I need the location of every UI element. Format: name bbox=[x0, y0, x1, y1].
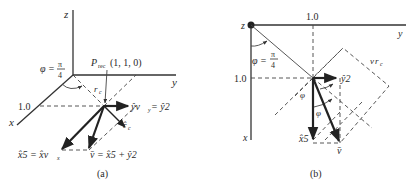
panel-b-caption: (b) bbox=[310, 168, 322, 180]
y-axis-label: y bbox=[171, 76, 177, 88]
figure-canvas: z y x φ = π 4 1.0 r c P rec (1, 1, 0) ŷv… bbox=[0, 0, 414, 190]
phi-small-label-1: φ bbox=[300, 90, 305, 100]
rc-hat-arrow bbox=[104, 106, 125, 127]
y-vector-label: ŷv bbox=[130, 101, 140, 112]
vrc-label: v bbox=[370, 56, 374, 66]
rc-hat-label: r̂ bbox=[123, 120, 127, 130]
phi-arc-upper bbox=[320, 84, 333, 89]
tick-left-1.0: 1.0 bbox=[234, 73, 247, 84]
phi-label-b: φ = bbox=[252, 55, 267, 66]
z-axis-label: z bbox=[63, 8, 69, 20]
phi-angle-arc-b bbox=[251, 41, 267, 46]
y-axis-label-b: y bbox=[397, 28, 403, 39]
x-axis-label: x bbox=[8, 116, 14, 128]
point-coords: (1, 1, 0) bbox=[110, 57, 142, 69]
rc-hat-sub: c bbox=[128, 125, 131, 131]
vrc-sub: r bbox=[375, 56, 379, 66]
phi-angle-arc bbox=[62, 84, 82, 89]
vrc-subsub: c bbox=[380, 61, 383, 67]
x-vector-label: x̂5 = x̂v bbox=[17, 149, 49, 160]
phi-numerator-b: π bbox=[271, 50, 275, 59]
x-vector-sub: x bbox=[56, 155, 60, 161]
z-axis-label-b: z bbox=[240, 20, 245, 31]
panel-a: z y x φ = π 4 1.0 r c P rec (1, 1, 0) ŷv… bbox=[8, 8, 177, 180]
v-vector-label: v̄ = x̂5 + ŷ2 bbox=[90, 149, 137, 160]
x-vector-label-b: x̂5 bbox=[298, 133, 308, 144]
rc-sub: c bbox=[99, 89, 102, 95]
x-vector-arrow bbox=[62, 106, 104, 149]
rc-line-b bbox=[251, 25, 313, 78]
panel-a-caption: (a) bbox=[97, 168, 108, 180]
point-sub: rec bbox=[98, 63, 106, 69]
phi-numerator: π bbox=[58, 60, 62, 69]
v-vector-label-b: v̄ bbox=[337, 145, 342, 156]
phi-denominator-b: 4 bbox=[271, 61, 275, 70]
rc-extension-dashed bbox=[313, 78, 372, 128]
y-vector-eq: = ŷ2 bbox=[151, 101, 170, 112]
phi-small-label-2: φ bbox=[316, 108, 321, 118]
tick-1.0: 1.0 bbox=[18, 101, 31, 112]
phi-denominator: 4 bbox=[58, 71, 62, 80]
rc-label: r bbox=[94, 84, 98, 94]
tick-top-1.0: 1.0 bbox=[306, 11, 319, 22]
y-vector-label-b: ŷ2 bbox=[340, 73, 350, 84]
point-label: P bbox=[90, 57, 97, 68]
phi-label: φ = bbox=[40, 63, 55, 74]
panel-b: z y x 1.0 1.0 φ = π 4 φ φ ŷ2 bbox=[234, 11, 406, 180]
x-axis-label-b: x bbox=[242, 132, 248, 143]
x-axis bbox=[17, 75, 73, 125]
